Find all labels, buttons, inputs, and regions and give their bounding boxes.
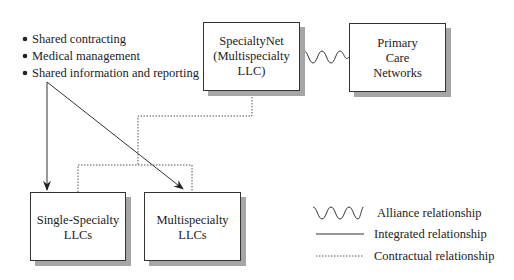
node-specialtynet: SpecialtyNet (Multispecialty LLC) <box>204 23 306 97</box>
legend-integrated-label: Integrated relationship <box>374 227 487 241</box>
node-multispecialty-llcs: Multispecialty LLCs <box>145 193 247 267</box>
contractual-connectors <box>78 91 252 192</box>
legend-alliance-wave-icon <box>313 207 363 219</box>
integrated-arrows <box>47 82 183 190</box>
node-label-line: SpecialtyNet <box>219 34 284 48</box>
contractual-line-llcs <box>78 165 192 192</box>
bullet-item: Shared information and reporting <box>32 66 200 80</box>
node-label-line: Single-Specialty <box>37 213 120 227</box>
feature-bullet-list: Shared contracting Medical management Sh… <box>23 32 200 80</box>
legend-contractual-label: Contractual relationship <box>374 249 494 263</box>
node-label-line: Networks <box>373 66 422 80</box>
node-label-line: LLCs <box>178 228 207 242</box>
node-primary-care-networks: Primary Care Networks <box>350 24 452 98</box>
bullet-item: Medical management <box>32 49 140 63</box>
bullet-icon <box>23 71 28 76</box>
node-single-specialty-llcs: Single-Specialty LLCs <box>31 193 132 267</box>
bullet-icon <box>23 54 28 59</box>
alliance-wave-connector <box>304 51 349 63</box>
legend-alliance-label: Alliance relationship <box>377 206 481 220</box>
arrow-to-multispecialty <box>47 82 183 189</box>
node-label-line: Multispecialty <box>156 213 229 227</box>
node-label-line: (Multispecialty <box>213 49 290 63</box>
bullet-item: Shared contracting <box>32 32 127 46</box>
contractual-line-specialtynet <box>138 91 252 165</box>
node-label-line: Primary <box>377 36 418 50</box>
node-label-line: Care <box>386 51 410 65</box>
node-label-line: LLC) <box>238 64 266 78</box>
diagram-canvas: Shared contracting Medical management Sh… <box>0 0 514 280</box>
bullet-icon <box>23 37 28 42</box>
legend: Alliance relationship Integrated relatio… <box>313 206 494 263</box>
node-label-line: LLCs <box>64 228 93 242</box>
